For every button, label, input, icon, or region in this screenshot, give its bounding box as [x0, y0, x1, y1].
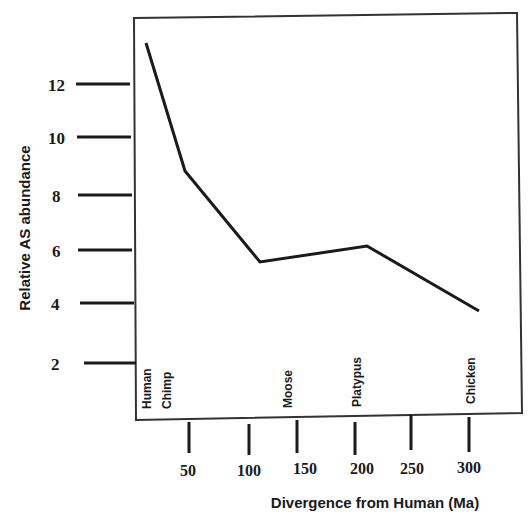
species-label-chimp: Chimp	[160, 372, 174, 409]
y-axis-tick-labels: 12 10 8 6 4 2	[48, 76, 65, 374]
y-axis-title: Relative AS abundance	[16, 145, 33, 310]
xtick-200: 200	[350, 460, 374, 477]
xtick-300: 300	[457, 459, 481, 476]
species-label-moose: Moose	[281, 370, 295, 408]
xtick-150: 150	[293, 460, 317, 477]
xtick-50: 50	[180, 462, 196, 479]
x-axis-title: Divergence from Human (Ma)	[271, 494, 479, 511]
x-axis-tick-labels: 50 100 150 200 250 300	[180, 459, 481, 479]
ytick-10: 10	[48, 129, 65, 148]
line-chart: 12 10 8 6 4 2 Relative AS abundance 50 1…	[0, 0, 532, 527]
species-label-chicken: Chicken	[464, 357, 478, 404]
y-axis-ticks	[76, 84, 136, 363]
xtick-100: 100	[237, 462, 261, 479]
data-series-line	[146, 43, 479, 311]
species-labels: Human Chimp Moose Platypus Chicken	[140, 357, 478, 409]
x-axis-ticks	[189, 415, 469, 455]
ytick-6: 6	[52, 242, 61, 261]
ytick-4: 4	[51, 295, 60, 314]
species-label-human: Human	[140, 368, 154, 409]
xtick-250: 250	[400, 460, 424, 477]
species-label-platypus: Platypus	[350, 357, 364, 407]
ytick-8: 8	[52, 187, 61, 206]
ytick-12: 12	[48, 76, 65, 95]
ytick-2: 2	[51, 355, 60, 374]
